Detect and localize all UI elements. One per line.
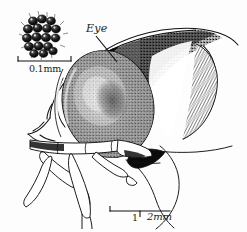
- eye-label: Eye: [86, 22, 108, 35]
- main-scale-tick-label: 1: [132, 212, 138, 223]
- insect-head-illustration: [0, 0, 247, 232]
- inset-scale-label: 0.1mm: [18, 63, 72, 74]
- main-scale-label: 2mm: [147, 211, 172, 222]
- figure-canvas: Eye 0.1mm 1 2mm: [0, 0, 247, 232]
